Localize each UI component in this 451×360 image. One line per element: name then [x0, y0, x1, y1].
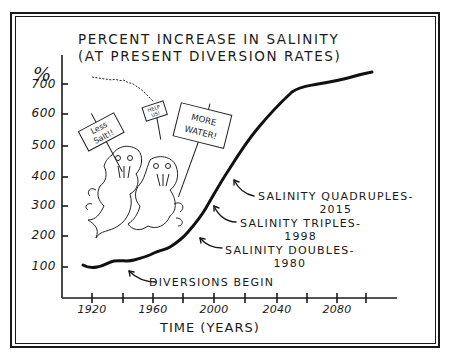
- annotation-doubles: SALINITY DOUBLES- 1980: [225, 244, 355, 270]
- cartoon-protesters: Less Salt!! HELP US! MORE WATER!: [74, 77, 233, 238]
- annotation-quadruples-label: SALINITY QUADRUPLES-: [258, 190, 414, 203]
- annotation-triples-year: 1998: [240, 230, 361, 243]
- more-water-sign: MORE WATER!: [159, 97, 233, 205]
- annotation-triples-label: SALINITY TRIPLES-: [240, 217, 361, 230]
- annotation-diversions-begin: DIVERSIONS BEGIN: [149, 276, 274, 289]
- plot-area: Less Salt!! HELP US! MORE WATER!: [0, 0, 451, 360]
- annotation-triples: SALINITY TRIPLES- 1998: [240, 217, 361, 243]
- annotation-quadruples: SALINITY QUADRUPLES- 2015: [258, 190, 414, 216]
- annotation-doubles-year: 1980: [225, 257, 355, 270]
- less-salt-sign: Less Salt!!: [74, 104, 140, 181]
- annotation-doubles-label: SALINITY DOUBLES-: [225, 244, 355, 257]
- annotation-quadruples-year: 2015: [258, 203, 414, 216]
- help-us-sign: HELP US!: [142, 101, 174, 142]
